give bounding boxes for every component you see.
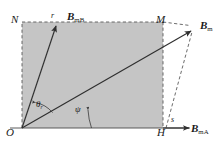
dashed-m-to-bm bbox=[163, 22, 190, 26]
vector-diagram-figure: N M O H r s BmB Bm BmA θr ψ bbox=[0, 0, 222, 145]
point-label-o: O bbox=[6, 127, 14, 138]
diagram-canvas bbox=[0, 0, 222, 145]
vector-label-bma: BmA bbox=[191, 123, 209, 134]
angle-label-psi-symbol: ψ bbox=[75, 104, 81, 114]
marker-label-s: s bbox=[171, 116, 174, 124]
point-label-m: M bbox=[156, 14, 165, 25]
vector-label-bmb-subscript: mB bbox=[74, 16, 84, 23]
angle-label-psi: ψ bbox=[75, 105, 81, 114]
vector-label-bma-subscript: mA bbox=[198, 128, 208, 135]
point-label-h: H bbox=[157, 127, 165, 138]
marker-label-r: r bbox=[51, 12, 54, 20]
vector-label-bmb: BmB bbox=[67, 11, 84, 22]
angle-label-theta-r: θr bbox=[36, 100, 43, 109]
shaded-region bbox=[22, 22, 163, 128]
vector-label-bm-subscript: m bbox=[207, 25, 212, 32]
point-label-n: N bbox=[11, 14, 18, 25]
dashed-h-to-bm bbox=[166, 32, 192, 128]
angle-label-theta-subscript: r bbox=[40, 104, 42, 110]
vector-label-bm: Bm bbox=[200, 20, 213, 31]
